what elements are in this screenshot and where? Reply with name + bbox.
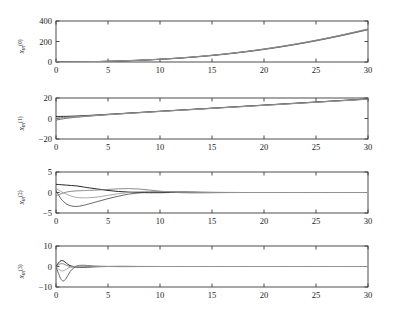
xtick-label: 20 [260, 142, 269, 152]
xtick-label: 20 [260, 216, 269, 226]
series-line [56, 30, 368, 62]
ylabel-0-sub: m [20, 46, 26, 50]
subplot-3: xm(3) 051015202530−10010 [0, 239, 393, 315]
series-line [56, 30, 368, 62]
axes-3: 051015202530−10010 [0, 239, 393, 315]
ylabel-3-sup: (3) [17, 265, 23, 271]
ytick-label: 400 [39, 16, 52, 26]
axes-frame-1 [56, 98, 368, 139]
xtick-label: 30 [364, 65, 373, 75]
ylabel-0-base: x [17, 50, 26, 54]
series-group-3 [56, 260, 368, 280]
xtick-label: 30 [364, 216, 373, 226]
xtick-label: 15 [208, 65, 217, 75]
xtick-label: 20 [260, 65, 269, 75]
subplot-0: xm(0) 0510152025300200400 [0, 14, 393, 90]
xtick-label: 30 [364, 142, 373, 152]
ytick-label: 20 [44, 93, 53, 103]
ylabel-0-sup: (0) [17, 40, 23, 46]
ylabel-2: xm(2) [17, 175, 26, 221]
ytick-label: −10 [39, 282, 52, 292]
ytick-label: 0 [48, 188, 52, 198]
series-line [56, 265, 368, 281]
xtick-label: 5 [106, 65, 110, 75]
ylabel-3-base: x [17, 275, 26, 279]
xtick-label: 25 [312, 216, 321, 226]
xtick-label: 5 [106, 290, 110, 300]
xtick-label: 25 [312, 142, 321, 152]
ylabel-1-sub: m [20, 123, 26, 127]
ytick-label: 0 [48, 57, 52, 67]
xtick-label: 0 [54, 216, 58, 226]
xtick-label: 15 [208, 216, 217, 226]
ylabel-0: xm(0) [17, 24, 26, 70]
ytick-label: −5 [43, 208, 52, 218]
figure-container: xm(0) 0510152025300200400 xm(1) 05101520… [0, 0, 393, 315]
series-line [56, 29, 368, 62]
subplot-1: xm(1) 051015202530−20020 [0, 91, 393, 167]
series-group-0 [56, 29, 368, 62]
xtick-label: 5 [106, 216, 110, 226]
series-line [56, 29, 368, 62]
axes-2: 051015202530−505 [0, 165, 393, 241]
ytick-label: 10 [44, 241, 53, 251]
ytick-label: 200 [39, 37, 52, 47]
ylabel-3-sub: m [20, 271, 26, 275]
xtick-label: 0 [54, 142, 58, 152]
ylabel-1: xm(1) [17, 101, 26, 147]
ytick-label: 5 [48, 167, 52, 177]
xtick-label: 15 [208, 142, 217, 152]
xtick-label: 5 [106, 142, 110, 152]
xtick-label: 10 [156, 290, 165, 300]
series-line [56, 266, 368, 271]
series-group-1 [56, 99, 368, 120]
subplot-2: xm(2) 051015202530−505 [0, 165, 393, 241]
ytick-label: 0 [48, 114, 52, 124]
xtick-label: 25 [312, 65, 321, 75]
ytick-label: 0 [48, 262, 52, 272]
xtick-label: 10 [156, 216, 165, 226]
xtick-label: 20 [260, 290, 269, 300]
xtick-label: 0 [54, 65, 58, 75]
xtick-label: 30 [364, 290, 373, 300]
xtick-label: 25 [312, 290, 321, 300]
series-group-2 [56, 184, 368, 206]
ylabel-1-base: x [17, 127, 26, 131]
xtick-label: 10 [156, 65, 165, 75]
ylabel-3: xm(3) [17, 249, 26, 295]
ytick-label: −20 [39, 134, 52, 144]
axes-0: 0510152025300200400 [0, 14, 393, 90]
xtick-label: 0 [54, 290, 58, 300]
ylabel-2-sub: m [20, 197, 26, 201]
ylabel-2-sup: (2) [17, 191, 23, 197]
series-line [56, 184, 368, 192]
axes-1: 051015202530−20020 [0, 91, 393, 167]
ylabel-1-sup: (1) [17, 117, 23, 123]
xtick-label: 10 [156, 142, 165, 152]
xtick-label: 15 [208, 290, 217, 300]
series-line [56, 99, 368, 119]
ylabel-2-base: x [17, 201, 26, 205]
